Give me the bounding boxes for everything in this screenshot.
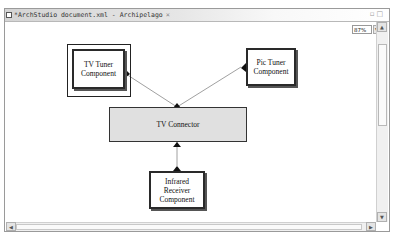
scroll-up-icon[interactable]: ▲ [377, 22, 387, 32]
component-label: Component [151, 195, 203, 204]
editor-tab-bar: *ArchStudio document.xml - Archipelago ×… [5, 9, 389, 22]
editor-frame: *ArchStudio document.xml - Archipelago ×… [4, 8, 390, 232]
zoom-level-combo[interactable]: 87% [352, 25, 372, 34]
connector-tv[interactable]: TV Connector [109, 107, 247, 142]
scroll-right-icon[interactable]: ▶ [366, 222, 376, 231]
component-label: TV Tuner [81, 60, 116, 69]
horizontal-scroll-thumb[interactable] [16, 224, 362, 230]
scroll-left-icon[interactable]: ◀ [6, 222, 16, 231]
editor-tab-title: *ArchStudio document.xml - Archipelago [14, 11, 163, 19]
editor-tab[interactable]: *ArchStudio document.xml - Archipelago × [6, 9, 170, 21]
scroll-down-icon[interactable]: ▼ [377, 212, 387, 222]
connector-label: TV Connector [157, 120, 200, 129]
component-pic-tuner[interactable]: Pic Tuner Component [246, 48, 296, 86]
component-label: Pic Tuner [254, 58, 289, 67]
component-tv-tuner[interactable]: TV Tuner Component [72, 49, 125, 89]
component-label: Component [81, 69, 116, 78]
diagram-canvas[interactable]: TV Tuner Component Pic Tuner Component T… [6, 22, 376, 222]
vertical-scroll-thumb[interactable] [378, 44, 387, 126]
vertical-scrollbar[interactable]: ▲ ▼ [376, 22, 388, 222]
document-icon [6, 12, 12, 18]
window-controls[interactable]: ▫□ [370, 10, 385, 18]
component-label: Infrared Receiver [151, 177, 203, 195]
horizontal-scrollbar[interactable]: ◀ ▶ [6, 222, 376, 231]
component-infrared-receiver[interactable]: Infrared Receiver Component [149, 171, 205, 209]
component-label: Component [254, 67, 289, 76]
close-icon[interactable]: × [166, 11, 170, 19]
